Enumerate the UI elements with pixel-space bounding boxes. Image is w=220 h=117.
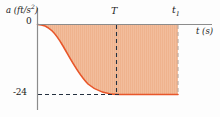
y-axis-label-close: ) xyxy=(35,5,38,15)
y-axis-label-main: a (ft/s xyxy=(6,5,31,15)
y-tick-label-zero: 0 xyxy=(26,17,32,26)
marker-label-t1-subscript: 1 xyxy=(176,10,180,18)
y-tick-label-minus24: -24 xyxy=(13,88,27,97)
marker-label-t1: t1 xyxy=(172,5,180,17)
acceleration-time-figure: a (ft/s2) t (s) 0 -24 T t1 xyxy=(0,0,220,117)
shaded-region xyxy=(38,25,179,95)
y-axis-label: a (ft/s2) xyxy=(6,4,38,14)
x-axis-label: t (s) xyxy=(196,27,213,36)
marker-label-T: T xyxy=(111,6,117,16)
plot-canvas xyxy=(0,0,220,117)
